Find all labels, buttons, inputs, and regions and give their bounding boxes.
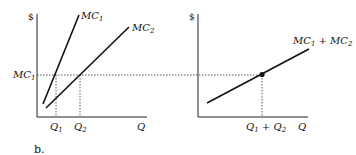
left-panel: $ MC1 MC2 MC1 Q1 Q2 Q <box>12 10 262 134</box>
price-level-label: MC1 <box>12 69 35 82</box>
right-x-axis-label: Q <box>298 121 306 132</box>
right-panel: $ MC1 + MC2 Q1 + Q2 Q <box>189 12 353 134</box>
figure-caption: b. <box>34 143 45 155</box>
mc-sum-curve <box>207 49 309 103</box>
left-y-axis-label: $ <box>28 12 34 22</box>
mc1-curve <box>43 15 79 104</box>
horizontal-summation-diagram: $ MC1 MC2 MC1 Q1 Q2 Q $ MC1 + MC2 Q1 + Q… <box>0 0 356 155</box>
q1-plus-q2-tick-label: Q1 + Q2 <box>246 121 287 134</box>
mc1-curve-label: MC1 <box>80 10 103 23</box>
q1-tick-label: Q1 <box>50 121 63 134</box>
right-y-axis-label: $ <box>189 12 195 22</box>
mc-sum-curve-label: MC1 + MC2 <box>292 35 353 48</box>
left-x-axis-label: Q <box>137 121 145 132</box>
equilibrium-point <box>259 72 264 77</box>
q2-tick-label: Q2 <box>74 121 87 134</box>
mc2-curve-label: MC2 <box>131 22 155 35</box>
